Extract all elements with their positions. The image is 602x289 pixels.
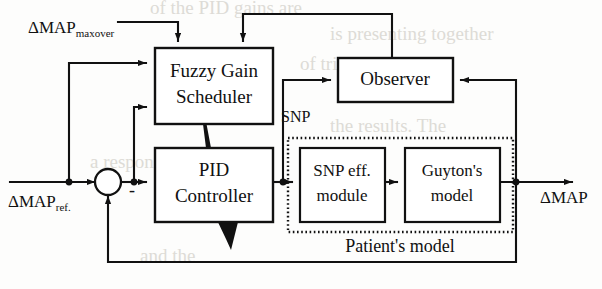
map-ref-base: ΔMAP (8, 192, 56, 211)
map-maxover-base: ΔMAP (28, 18, 76, 37)
dot-map-output-branch (513, 179, 520, 186)
block-snp-eff-module[interactable]: SNP eff. module (300, 148, 385, 222)
dot-map-ref-branch (66, 179, 73, 186)
signal-label-map-output: ΔMAP (540, 188, 588, 207)
patients-model-label: Patient's model (345, 236, 455, 256)
snp-eff-module-label-line1: SNP eff. (313, 161, 371, 180)
observer-label: Observer (360, 68, 430, 89)
svg-text:the results. The: the results. The (330, 115, 446, 136)
signal-label-map-maxover: ΔMAPmaxover (28, 18, 115, 39)
map-maxover-subscript: maxover (76, 27, 115, 39)
pid-controller-label-line1: PID (199, 159, 230, 180)
fuzzy-gain-scheduler-label-line2: Scheduler (176, 86, 253, 107)
summing-junction[interactable] (95, 169, 121, 195)
block-fuzzy-gain-scheduler[interactable]: Fuzzy Gain Scheduler (155, 48, 273, 124)
block-diagram-figure: of the PID gains are is presenting toget… (0, 0, 602, 289)
fuzzy-gain-scheduler-label-line1: Fuzzy Gain (170, 60, 259, 81)
svg-text:of the PID gains are: of the PID gains are (150, 0, 302, 18)
wire-map-maxover-to-scheduler (118, 22, 178, 41)
guytons-model-label-line1: Guyton's (422, 161, 483, 180)
summing-junction-minus-sign: - (129, 180, 135, 200)
block-guytons-model[interactable]: Guyton's model (405, 148, 500, 222)
signal-label-snp: SNP (281, 108, 310, 125)
block-observer[interactable]: Observer (338, 58, 453, 102)
pid-controller-label-line2: Controller (175, 185, 254, 206)
wire-layer (10, 14, 572, 262)
block-pid-controller[interactable]: PID Controller (155, 148, 273, 222)
wedge-scheduler-to-pid (203, 124, 211, 148)
diagram-canvas: of the PID gains are is presenting toget… (0, 0, 602, 289)
guytons-model-label-line2: model (431, 186, 474, 205)
map-ref-subscript: ref. (56, 201, 71, 213)
dot-snp-branch (280, 179, 287, 186)
signal-label-map-ref: ΔMAPref. (8, 192, 71, 213)
page-bleed-through: of the PID gains are is presenting toget… (90, 0, 494, 266)
snp-eff-module-label-line2: module (317, 186, 368, 205)
svg-text:is presenting together: is presenting together (330, 23, 494, 44)
